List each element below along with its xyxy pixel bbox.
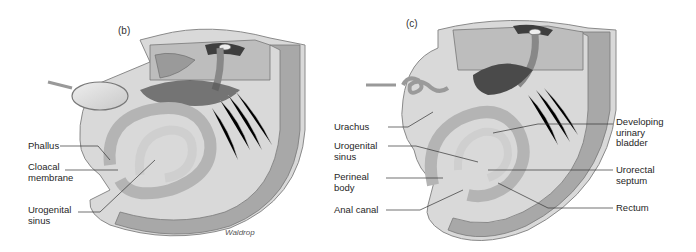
- allantois-stalk-b: [48, 82, 72, 88]
- label-urachus: Urachus: [334, 122, 369, 133]
- panel-c: (c) Urachus Urogenital sinus Perineal bo…: [348, 0, 696, 252]
- label-developing-urinary-bladder: Developing urinary bladder: [616, 117, 664, 149]
- panel-label-b: (b): [118, 25, 130, 36]
- label-rectum: Rectum: [616, 203, 649, 214]
- label-anal-canal: Anal canal: [334, 205, 378, 216]
- label-perineal-body: Perineal body: [334, 172, 369, 193]
- allantois-loop-b: [72, 82, 128, 110]
- label-phallus: Phallus: [28, 141, 59, 152]
- label-urogenital-sinus-c: Urogenital sinus: [334, 141, 377, 162]
- panel-b: (b) Phallus Cloacal membrane Urogenital …: [0, 0, 348, 252]
- illustrator-credit: Waldrop: [225, 228, 255, 237]
- label-urorectal-septum: Urorectal septum: [616, 165, 655, 186]
- label-urogenital-sinus-b: Urogenital sinus: [28, 205, 71, 226]
- panel-label-c: (c): [406, 18, 418, 29]
- label-cloacal-membrane: Cloacal membrane: [28, 162, 73, 183]
